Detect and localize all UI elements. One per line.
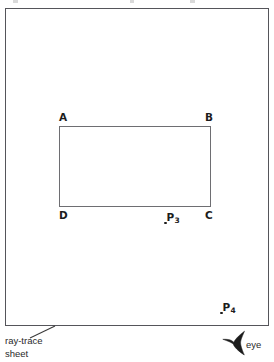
quadrilateral-abcd — [59, 126, 211, 207]
ray-trace-diagram: A B C D P3 P4 ray-trace sheet eye — [0, 0, 274, 362]
eye-icon — [222, 330, 246, 356]
vertex-label-c: C — [205, 210, 213, 221]
ray-trace-sheet-caption: ray-trace sheet — [5, 334, 42, 360]
point-label-p3-subscript: 3 — [175, 216, 180, 225]
vertex-label-d: D — [59, 210, 68, 221]
eye-caption: eye — [246, 340, 261, 350]
point-label-p4: P4 — [223, 302, 236, 313]
scan-artifact-center — [130, 0, 134, 3]
scan-artifact-right — [190, 0, 195, 3]
point-label-p4-subscript: 4 — [231, 306, 236, 315]
point-label-p3-letter: P — [167, 211, 175, 223]
point-label-p4-letter: P — [223, 301, 231, 313]
vertex-label-b: B — [205, 112, 213, 123]
scan-artifact-left — [13, 0, 18, 3]
vertex-label-a: A — [59, 112, 67, 123]
point-label-p3: P3 — [167, 212, 180, 223]
